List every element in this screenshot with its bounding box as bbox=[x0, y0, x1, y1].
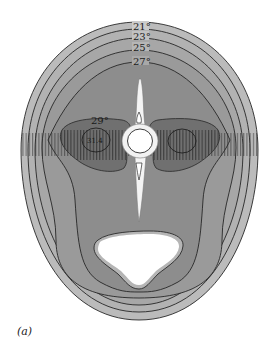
isotherm-cross-section-diagram: 21° 23° 25° 27° 29° 31.4 bbox=[0, 0, 275, 354]
isotherm-label-27: 27° bbox=[133, 56, 151, 67]
vertebra-centrum bbox=[128, 129, 153, 153]
panel-label: (a) bbox=[17, 325, 32, 338]
isotherm-label-21: 21° bbox=[133, 21, 151, 32]
isotherm-label-23: 23° bbox=[133, 31, 151, 42]
isotherm-label-31-4: 31.4 bbox=[87, 137, 103, 145]
isotherm-label-29: 29° bbox=[91, 115, 109, 126]
isotherm-label-25: 25° bbox=[133, 42, 151, 53]
